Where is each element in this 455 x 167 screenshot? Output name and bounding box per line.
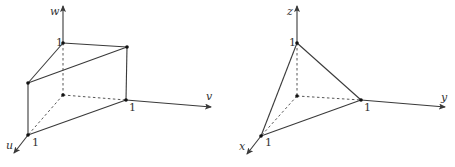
- vertex-point: [26, 81, 30, 85]
- x-axis: [247, 136, 261, 154]
- w-tick-label: 1: [56, 36, 63, 49]
- v-axis: [126, 100, 211, 107]
- tetrahedron-figure: z y x 1 1 1: [239, 5, 448, 154]
- diagram-canvas: w v u 1 1 1 z y x 1 1 1: [0, 0, 455, 167]
- edge: [261, 43, 297, 136]
- edge: [28, 100, 126, 135]
- y-axis-label: y: [440, 91, 448, 104]
- edge: [297, 43, 361, 100]
- vertex-point: [259, 134, 263, 138]
- x-axis-label: x: [239, 140, 246, 153]
- edge: [126, 47, 127, 100]
- x-tick-label: 1: [265, 136, 272, 149]
- vertex-point: [125, 45, 129, 49]
- u-axis: [14, 135, 28, 153]
- vertex-point: [359, 98, 363, 102]
- origin-point: [295, 94, 299, 98]
- v-tick-label: 1: [129, 101, 136, 114]
- prism-figure: w v u 1 1 1: [6, 5, 213, 153]
- hidden-edge: [63, 95, 126, 100]
- z-tick-label: 1: [289, 36, 296, 49]
- u-axis-label: u: [6, 139, 13, 152]
- edge: [261, 100, 361, 136]
- y-tick-label: 1: [364, 101, 371, 114]
- y-axis: [361, 100, 445, 107]
- origin-point: [61, 93, 65, 97]
- w-axis-label: w: [50, 5, 60, 18]
- edge: [63, 43, 127, 47]
- u-tick-label: 1: [32, 136, 39, 149]
- hidden-edge: [297, 96, 361, 100]
- edge: [28, 47, 127, 83]
- v-axis-label: v: [206, 90, 213, 103]
- vertex-point: [124, 98, 128, 102]
- z-axis-label: z: [286, 5, 293, 18]
- vertex-point: [26, 133, 30, 137]
